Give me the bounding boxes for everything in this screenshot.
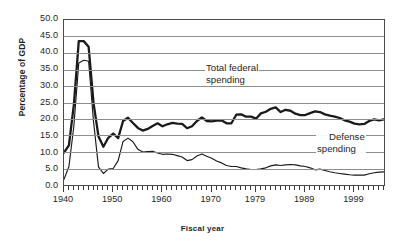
x-axis-tick [230,186,231,190]
gridline [64,86,384,87]
y-axis-tick-label: 45.0 [18,31,58,40]
gridline [64,103,384,104]
gridline [64,169,384,170]
x-axis-tick [206,186,207,190]
x-axis-tick-label: 1999 [333,194,373,204]
y-axis-tick-label: 30.0 [18,81,58,90]
x-axis-tick [235,186,236,190]
x-axis-tick [270,186,271,190]
x-axis-tick [122,186,123,190]
x-axis-tick [250,186,251,190]
x-axis-tick [378,186,379,190]
y-axis-tick-label: 15.0 [18,131,58,140]
y-axis-tick-label: 20.0 [18,114,58,123]
annotation-total-federal-spending: Total federal spending [205,62,259,86]
y-axis-tick-label: 50.0 [18,14,58,23]
x-axis-tick-marks [63,186,385,193]
x-axis-tick [339,186,340,190]
y-axis-tick-label: 25.0 [18,98,58,107]
x-axis-tick [73,186,74,190]
y-axis-tick-label: 40.0 [18,47,58,56]
x-axis-tick [107,186,108,190]
x-axis-tick [280,186,281,190]
x-axis-tick-label: 1960 [141,194,181,204]
annotation-total-line2: spending [206,74,258,86]
x-axis-tick [285,186,286,190]
x-axis-tick [152,186,153,190]
x-axis-tick [373,186,374,190]
annotation-defense-line1: Defense [317,131,365,143]
x-axis-tick-label: 1989 [284,194,324,204]
gridline [64,119,384,120]
x-axis-tick [363,186,364,190]
x-axis-tick [275,186,276,190]
x-axis-tick [78,186,79,190]
y-axis-tick-label: 0.0 [18,181,58,190]
x-axis-tick [68,186,69,190]
x-axis-tick [161,186,162,192]
y-axis-tick-label: 10.0 [18,148,58,157]
gridline [64,36,384,37]
x-axis-tick [196,186,197,190]
x-axis-tick [221,186,222,190]
x-axis-tick [147,186,148,190]
y-axis-tick-label: 5.0 [18,164,58,173]
x-axis-tick-label: 1950 [92,194,132,204]
x-axis-tick [102,186,103,190]
x-axis-tick [83,186,84,190]
x-axis-tick [93,186,94,190]
x-axis-tick [319,186,320,190]
y-axis-tick-label: 35.0 [18,64,58,73]
x-axis-tick [88,186,89,190]
x-axis-tick-label: 1940 [43,194,83,204]
x-axis-tick [309,186,310,190]
x-axis-tick [166,186,167,190]
x-axis-tick [324,186,325,190]
x-axis-tick [304,186,305,192]
x-axis-tick [368,186,369,190]
annotation-defense-line2: spending [317,143,365,155]
x-axis-tick [344,186,345,190]
x-axis-tick [383,186,384,190]
x-axis-tick [127,186,128,190]
x-axis-tick [157,186,158,190]
x-axis-tick [176,186,177,190]
annotation-total-line1: Total federal [206,62,258,74]
x-axis-tick [260,186,261,190]
x-axis-tick [211,186,212,192]
x-axis-tick [181,186,182,190]
x-axis-tick [265,186,266,190]
x-axis-tick [245,186,246,190]
x-axis-tick-label: 1979 [235,194,275,204]
x-axis-tick [334,186,335,190]
x-axis-tick [314,186,315,190]
x-axis-tick-labels: 1940195019601970197919891999 [0,194,405,208]
annotation-defense-spending: Defense spending [316,131,366,155]
x-axis-tick [349,186,350,190]
x-axis-tick [186,186,187,190]
chart-figure: Percentage of GDP 50.045.040.035.030.025… [0,0,405,249]
x-axis-tick [255,186,256,192]
x-axis-tick [191,186,192,190]
x-axis-tick [117,186,118,190]
x-axis-tick [132,186,133,190]
x-axis-tick [137,186,138,190]
x-axis-tick [216,186,217,190]
y-axis-tick-labels: 50.045.040.035.030.025.020.015.010.05.00… [18,0,58,249]
x-axis-tick [112,186,113,192]
x-axis-tick [294,186,295,190]
x-axis-tick [289,186,290,190]
x-axis-tick [63,186,64,192]
x-axis-tick [201,186,202,190]
x-axis-title: Fiscal year [0,224,405,233]
plot-area [63,19,385,186]
x-axis-tick [353,186,354,192]
x-axis-tick [97,186,98,190]
x-axis-tick [358,186,359,190]
x-axis-tick [225,186,226,190]
x-axis-tick [299,186,300,190]
x-axis-tick [240,186,241,190]
gridline [64,53,384,54]
x-axis-tick-label: 1970 [191,194,231,204]
x-axis-tick [171,186,172,190]
